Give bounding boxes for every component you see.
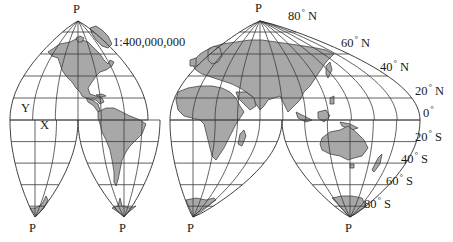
greenland [90,26,112,48]
point-label-y: Y [21,102,30,115]
south-pole-label-4: P [345,222,352,235]
africa [176,86,244,160]
north-pole-label-2: P [255,2,262,15]
south-pole-label-3: P [187,222,194,235]
latitude-label: 20°S [415,131,442,144]
latitude-label: 20°N [415,85,444,98]
latitude-label: 40°N [380,61,409,74]
lobe-edge [10,120,35,217]
south-pole-label-1: P [29,222,36,235]
latitude-label: 60°S [386,175,413,188]
australia [320,126,368,160]
continents [30,26,382,217]
latitude-label: 40°S [401,153,428,166]
scale-label: 1:400,000,000 [113,36,185,49]
north-america [48,38,114,104]
south-pole-label-2: P [119,222,126,235]
madagascar [238,130,246,146]
indonesia [296,112,312,122]
british-isles [190,58,196,66]
latitude-label: 0° [423,107,437,120]
point-label-x: X [40,119,49,132]
latitude-label: 80°S [364,198,391,211]
philippines [330,96,334,104]
arctic-island [76,36,84,42]
north-pole-label-1: P [73,3,80,16]
latitude-label: 60°N [341,37,370,50]
latitude-label: 80°N [288,10,317,23]
tasmania [350,164,354,168]
